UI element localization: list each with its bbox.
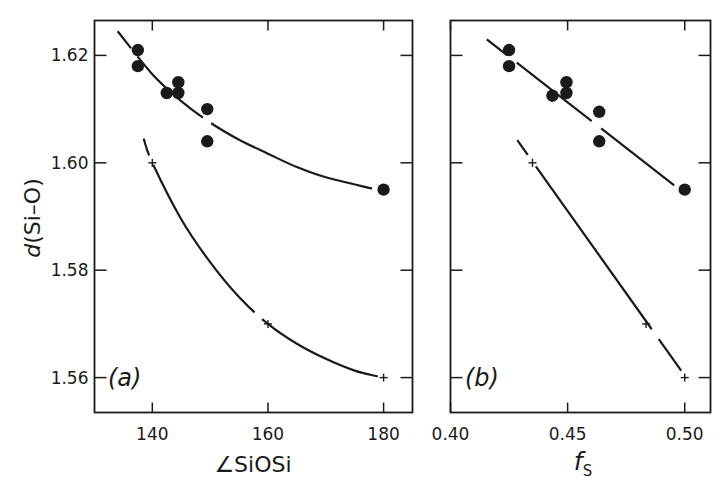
x-tick-label: 180 — [367, 424, 399, 444]
data-point-observed — [593, 135, 605, 147]
panel-label: (a) — [108, 364, 141, 392]
y-axis-title-rest: (Si–O) — [20, 178, 45, 244]
data-point-observed — [377, 183, 389, 195]
x-tick-label: 0.45 — [549, 424, 587, 444]
data-point-observed — [503, 60, 515, 72]
y-tick-label: 1.56 — [51, 368, 89, 388]
y-axis-title-d: d — [20, 243, 45, 258]
x-axis-title-b-sub: S — [583, 462, 593, 480]
data-point-calculated — [528, 159, 536, 167]
x-tick-label: 160 — [252, 424, 284, 444]
y-tick-label: 1.62 — [51, 45, 89, 65]
panel-b: 0.400.450.50(b) — [432, 21, 711, 444]
data-point-observed — [679, 183, 691, 195]
data-point-observed — [560, 76, 572, 88]
x-tick-label: 140 — [136, 424, 168, 444]
x-axis-title-a: ∠SiOSi — [214, 452, 291, 477]
data-point-calculated — [681, 374, 689, 382]
figure: 1401601801.561.581.601.62(a) 0.400.450.5… — [0, 0, 724, 486]
y-tick-label: 1.58 — [51, 260, 89, 280]
observed-fit-line — [118, 31, 372, 188]
data-point-observed — [172, 76, 184, 88]
x-tick-label: 0.50 — [666, 424, 704, 444]
data-point-observed — [132, 44, 144, 56]
y-tick-label: 1.60 — [51, 153, 89, 173]
data-point-calculated — [380, 374, 388, 382]
plot-frame — [95, 21, 413, 413]
calculated-fit-line — [517, 140, 681, 370]
calculated-fit-line — [144, 139, 378, 377]
x-axis-title-b: fS — [574, 447, 592, 480]
data-point-observed — [593, 106, 605, 118]
data-point-observed — [201, 103, 213, 115]
plot-frame — [451, 21, 711, 413]
x-tick-label: 0.40 — [432, 424, 470, 444]
data-point-observed — [201, 135, 213, 147]
panel-label: (b) — [465, 364, 499, 392]
data-point-calculated — [148, 159, 156, 167]
y-axis-title: d(Si–O) — [20, 178, 45, 258]
observed-fit-line — [487, 39, 674, 185]
panel-a: 1401601801.561.581.601.62(a) — [51, 21, 413, 444]
